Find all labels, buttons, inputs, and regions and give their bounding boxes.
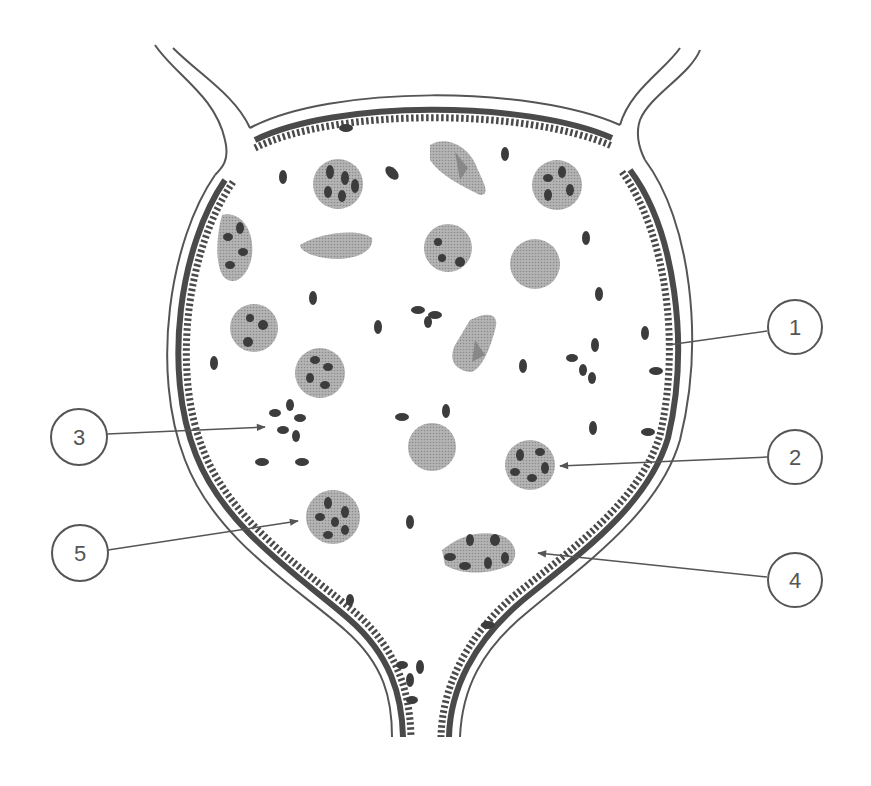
right-ureter — [620, 48, 700, 160]
callout-label: 5 — [74, 541, 86, 566]
bladder-diagram: 1 2 3 4 5 — [0, 0, 871, 786]
leukocyte — [295, 348, 345, 398]
callout-label: 4 — [789, 568, 801, 593]
leukocyte — [306, 490, 360, 544]
bacteria — [210, 124, 663, 704]
callout-5: 5 — [52, 521, 298, 581]
bladder-outer-wall — [167, 95, 692, 737]
white-blood-cells — [217, 159, 582, 573]
left-ureter — [155, 45, 250, 175]
leukocyte — [505, 440, 555, 490]
leukocyte — [217, 214, 252, 281]
callout-label: 2 — [789, 445, 801, 470]
leukocyte — [230, 304, 278, 352]
leukocyte-cluster — [442, 533, 515, 572]
leukocyte — [424, 224, 472, 272]
callout-4: 4 — [538, 553, 822, 607]
callout-label: 3 — [73, 425, 85, 450]
leukocyte — [532, 160, 582, 210]
callout-3: 3 — [51, 409, 265, 465]
callout-2: 2 — [560, 430, 822, 484]
callout-label: 1 — [789, 315, 801, 340]
leukocyte — [313, 159, 363, 209]
